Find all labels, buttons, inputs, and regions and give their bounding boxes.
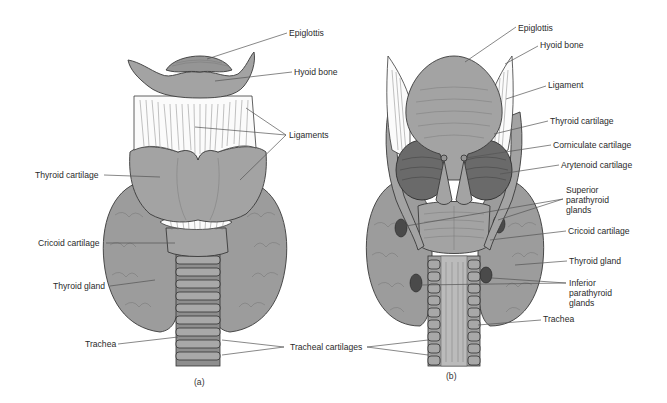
label-thyroid-cartilage-b: Thyroid cartilage [550,116,614,126]
panel-b-posterior-view [366,56,543,366]
larynx-thyroid-diagram: Epiglottis Hyoid bone Ligaments Thyroid … [0,0,667,403]
corniculate-cartilage-left [441,155,447,161]
label-ligaments-a: Ligaments [289,130,329,140]
epiglottis-a [166,56,232,72]
label-trachea-a: Trachea [85,339,116,349]
label-cricoid-cartilage-b: Cricoid cartilage [568,226,630,236]
label-cricoid-cartilage-a: Cricoid cartilage [38,238,100,248]
label-corniculate-cartilage: Corniculate cartilage [553,140,632,150]
superior-parathyroid-left [395,219,407,237]
label-inferior-parathyroid-2: parathyroid [569,288,612,298]
label-superior-parathyroid-3: glands [566,205,591,215]
label-thyroid-cartilage-a: Thyroid cartilage [35,170,99,180]
label-superior-parathyroid-2: parathyroid [566,195,609,205]
label-thyroid-gland-a: Thyroid gland [53,281,105,291]
trachea-a [176,254,220,366]
label-tracheal-cartilages: Tracheal cartilages [290,342,362,352]
label-superior-parathyroid-1: Superior [566,185,599,195]
anatomy-illustration: Epiglottis Hyoid bone Ligaments Thyroid … [0,0,667,403]
label-epiglottis-a: Epiglottis [289,28,324,38]
label-arytenoid-cartilage: Arytenoid cartilage [561,160,632,170]
caption-a: (a) [194,377,205,387]
label-trachea-b: Trachea [543,314,574,324]
label-inferior-parathyroid-1: Inferior [569,278,596,288]
label-hyoid-bone-b: Hyoid bone [540,40,584,50]
inferior-parathyroid-left [410,274,422,292]
label-thyroid-gland-b: Thyroid gland [569,256,621,266]
caption-b: (b) [446,371,457,381]
inferior-parathyroid-right [480,267,492,283]
trachea-b [428,256,480,366]
label-ligament-b: Ligament [548,80,584,90]
cricoid-cartilage-a [166,228,228,257]
panel-a-anterior-view [103,52,287,366]
shared-labels: Tracheal cartilages [222,340,428,355]
label-epiglottis-b: Epiglottis [518,23,553,33]
label-hyoid-bone-a: Hyoid bone [294,67,338,77]
label-inferior-parathyroid-3: glands [569,298,594,308]
